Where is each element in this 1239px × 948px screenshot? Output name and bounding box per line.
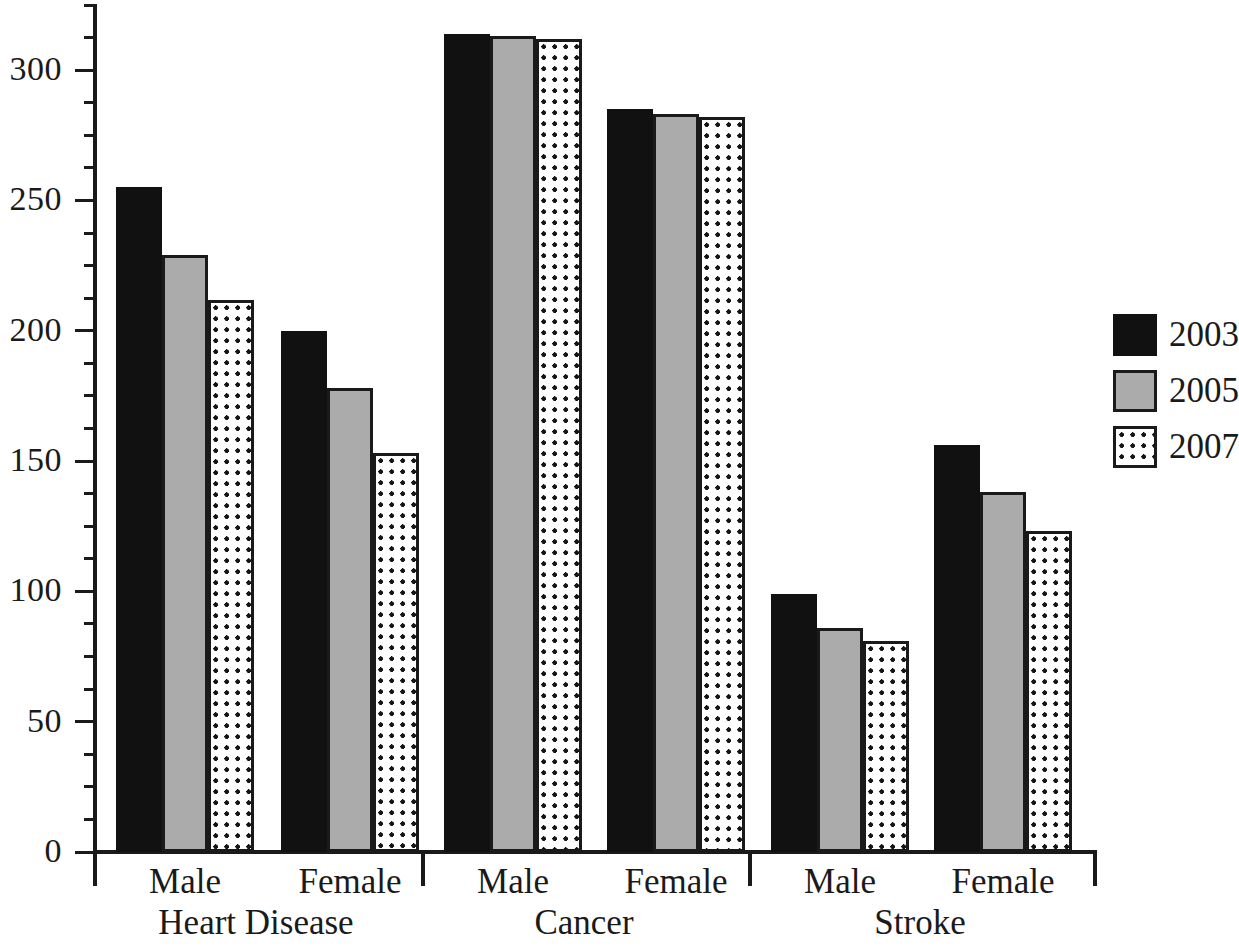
legend-label: 2005 — [1169, 366, 1239, 416]
dotted-square-swatch — [1113, 426, 1157, 468]
bar — [934, 445, 980, 852]
legend: 2003 2005 2007 — [1113, 310, 1223, 478]
legend-item-2007: 2007 — [1113, 422, 1223, 478]
bar — [327, 388, 373, 852]
bar — [699, 117, 745, 852]
bar — [863, 641, 909, 852]
y-tick-label: 200 — [0, 313, 62, 347]
bar — [490, 36, 536, 852]
legend-item-2003: 2003 — [1113, 310, 1223, 366]
bar — [444, 34, 490, 852]
subgroup-label: Male — [95, 862, 275, 902]
bar — [980, 492, 1026, 852]
y-tick-label: 100 — [0, 573, 62, 607]
bar — [1026, 531, 1072, 852]
group-separator — [1093, 850, 1097, 886]
black-square-swatch — [1113, 314, 1157, 356]
bar — [281, 331, 327, 852]
subgroup-label: Female — [913, 862, 1093, 902]
bars-layer — [93, 5, 1095, 852]
bar — [208, 300, 254, 853]
gray-square-swatch — [1113, 370, 1157, 412]
bar — [607, 109, 653, 852]
y-tick-label: 300 — [0, 52, 62, 86]
bar — [536, 39, 582, 852]
subgroup-label: Male — [750, 862, 930, 902]
legend-label: 2003 — [1169, 310, 1239, 360]
y-tick-label: 0 — [0, 834, 62, 868]
bar — [373, 453, 419, 852]
group-label: Cancer — [424, 903, 744, 943]
legend-label: 2007 — [1169, 422, 1239, 472]
group-label: Stroke — [760, 903, 1080, 943]
bar — [653, 114, 699, 852]
subgroup-label: Female — [260, 862, 440, 902]
y-tick-label: 250 — [0, 182, 62, 216]
bar — [162, 255, 208, 852]
subgroup-label: Female — [586, 862, 766, 902]
y-tick-label: 150 — [0, 443, 62, 477]
bar — [817, 628, 863, 852]
bar — [771, 594, 817, 852]
subgroup-label: Male — [423, 862, 603, 902]
y-tick-label: 50 — [0, 704, 62, 738]
legend-item-2005: 2005 — [1113, 366, 1223, 422]
group-label: Heart Disease — [96, 903, 416, 943]
bar — [116, 187, 162, 852]
